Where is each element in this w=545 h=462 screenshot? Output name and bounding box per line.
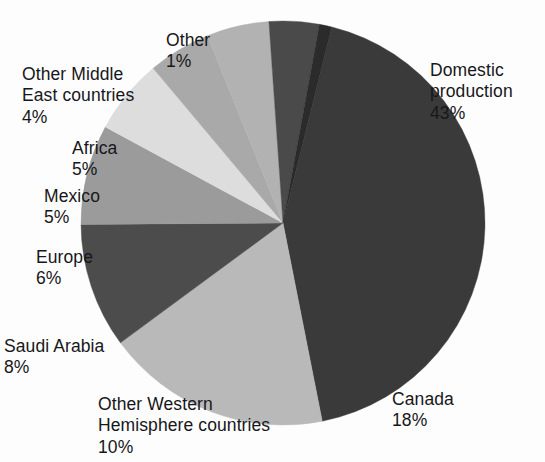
pie-label-other: Other 1% [166, 8, 286, 95]
pie-label-mexico-value: 5% [44, 207, 164, 229]
pie-label-saudi-arabia-value: 8% [4, 357, 164, 379]
pie-label-europe-value: 6% [36, 268, 156, 290]
pie-label-saudi-arabia-name: Saudi Arabia [4, 336, 104, 356]
pie-label-canada-value: 18% [392, 410, 522, 432]
pie-label-canada: Canada 18% [392, 367, 522, 454]
pie-label-africa-value: 5% [72, 159, 182, 181]
pie-label-other-middle-east-name: Other Middle East countries [22, 64, 134, 106]
pie-label-domestic-production-name: Domestic production [430, 60, 513, 102]
pie-label-other-western-hemisphere-value: 10% [98, 437, 328, 459]
pie-label-domestic-production-value: 43% [430, 103, 545, 125]
pie-label-other-value: 1% [166, 51, 286, 73]
pie-label-other-name: Other [166, 30, 210, 50]
pie-label-other-middle-east: Other Middle East countries 4% [22, 42, 182, 150]
pie-label-other-middle-east-value: 4% [22, 107, 182, 129]
pie-label-domestic-production: Domestic production 43% [430, 38, 545, 146]
pie-label-saudi-arabia: Saudi Arabia 8% [4, 314, 164, 401]
pie-chart-figure: Domestic production 43% Canada 18% Other… [0, 0, 545, 462]
pie-label-canada-name: Canada [392, 389, 454, 409]
